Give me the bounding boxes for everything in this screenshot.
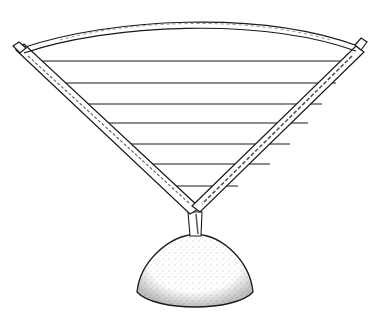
harp-drawing xyxy=(0,0,386,328)
stem xyxy=(188,212,202,236)
illustration-canvas: Line drawing of a fan-shaped frame of tw… xyxy=(0,0,386,328)
dome-base xyxy=(137,234,253,307)
right-stick xyxy=(192,46,364,212)
top-bow xyxy=(22,22,358,53)
strings xyxy=(38,61,352,186)
left-stick xyxy=(16,44,200,214)
